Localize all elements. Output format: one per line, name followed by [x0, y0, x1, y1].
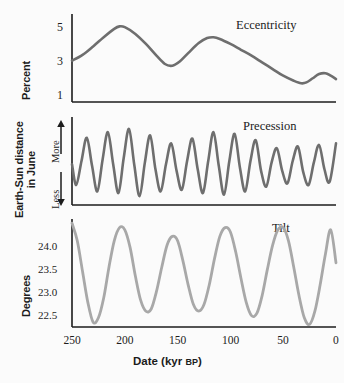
- eccentricity-ytick-1: 1: [57, 88, 63, 103]
- tilt-ytick-22-5: 22.5: [38, 309, 57, 321]
- x-axis-tick-150: 150: [169, 334, 186, 346]
- precession-y-axis-title: Earth-Sun distance in June: [13, 121, 37, 218]
- eccentricity-plot: [70, 14, 340, 110]
- x-axis-tick-50: 50: [277, 334, 289, 346]
- x-axis-tick-200: 200: [116, 334, 133, 346]
- x-axis-tick-0: 0: [333, 334, 339, 346]
- arrow-up-icon: [57, 120, 65, 154]
- precession-curve: [72, 129, 336, 196]
- tilt-ytick-24-0: 24.0: [38, 240, 57, 252]
- x-axis-tick-250: 250: [64, 334, 81, 346]
- eccentricity-curve: [72, 26, 336, 83]
- precession-y-axis-title-line1: Earth-Sun distance: [13, 121, 25, 218]
- x-axis-tick-100: 100: [222, 334, 239, 346]
- tilt-plot: [70, 219, 340, 337]
- x-axis-title-close: ): [198, 355, 202, 367]
- arrow-down-icon: [57, 172, 65, 206]
- precession-y-axis-title-line2: in June: [25, 121, 37, 218]
- tilt-ytick-23-0: 23.0: [38, 286, 57, 298]
- x-axis-title-caps: BP: [185, 357, 198, 367]
- eccentricity-y-axis-title: Percent: [20, 61, 32, 100]
- precession-direction-arrows: [54, 120, 68, 206]
- eccentricity-ytick-5: 5: [57, 20, 63, 35]
- tilt-ytick-23-5: 23.5: [38, 263, 57, 275]
- panel-eccentricity: Percent 5 3 1 Eccentricity: [0, 14, 344, 110]
- x-axis-title-main: Date (kyr: [133, 355, 185, 367]
- panel-tilt: Degrees 24.0 23.5 23.0 22.5 Tilt: [0, 219, 344, 339]
- eccentricity-ytick-3: 3: [57, 54, 63, 69]
- tilt-curve: [72, 223, 336, 324]
- milankovitch-cycles-figure: Percent 5 3 1 Eccentricity Earth-Sun dis…: [0, 0, 344, 383]
- precession-plot: [70, 117, 340, 213]
- x-axis-title: Date (kyr BP): [133, 355, 202, 367]
- tilt-y-axis-title: Degrees: [20, 275, 32, 317]
- panel-precession: Earth-Sun distance in June More Less Pre…: [0, 117, 344, 213]
